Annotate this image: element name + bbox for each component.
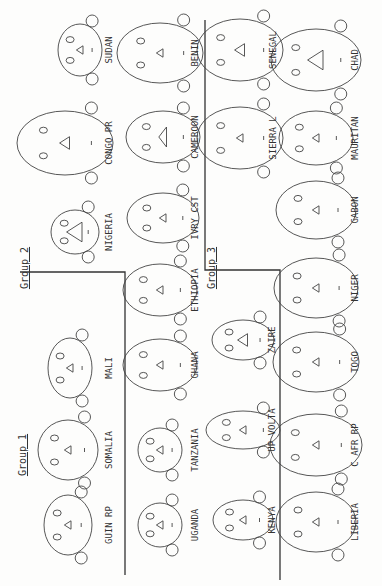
nose-icon [60,137,70,150]
ear-icon [254,491,266,503]
nose-icon [239,516,246,524]
nose-icon [312,518,319,526]
head-outline [274,258,358,318]
ear-icon [177,240,189,252]
face-ethiopia [123,255,197,325]
head-outline [44,495,92,555]
eye-icon [294,195,302,201]
eye-icon [146,456,154,462]
ear-icon [174,313,186,325]
face-ghana [123,330,197,400]
eye-icon [222,419,230,425]
group-label: Group 1 [17,434,28,476]
ear-icon [174,330,186,342]
eye-icon [137,38,145,44]
eye-icon [139,277,147,283]
head-outline [213,500,273,540]
face-uganda [138,494,182,556]
ear-icon [254,311,266,323]
head-outline [279,111,353,165]
ear-icon [178,80,190,92]
eye-icon [139,297,147,303]
ear-icon [177,102,189,114]
country-label: SIERRA L [268,116,278,159]
country-label: CHAD [350,49,360,71]
eye-icon [143,205,151,211]
eye-icon [66,37,74,43]
ear-icon [82,251,94,263]
ear-icon [254,357,266,369]
country-label: TANZANIA [190,428,200,472]
face-tanzania [138,419,182,481]
ear-icon [258,98,270,110]
country-label: UP VOLTA [267,408,277,452]
face-togo [273,323,359,401]
eye-icon [294,507,302,513]
face-congo-pr [17,102,113,184]
nose-icon [156,361,163,369]
ear-icon [258,10,270,22]
nose-icon [312,206,319,214]
eye-icon [293,273,301,279]
labels-layer: SUDANCONGO PRNIGERIABENINCAMEROONIVRY CS… [17,31,360,544]
head-outline [126,111,200,163]
country-label: ETHIOPIA [190,268,200,312]
eye-icon [146,531,154,537]
country-label: TOGO [350,351,360,373]
head-outline [138,428,182,472]
eye-icon [56,353,64,359]
ear-icon [166,544,178,556]
country-label: NIGER [350,274,360,302]
head-outline [123,264,197,316]
ear-icon [86,15,98,27]
ear-icon [335,405,347,417]
eye-icon [51,459,59,465]
eye-icon [293,297,301,303]
nose-icon [312,134,319,142]
country-label: UGANDA [190,508,200,541]
eye-icon [51,435,59,441]
ear-icon [332,549,344,561]
ear-icon [177,160,189,172]
head-outline [51,210,99,254]
group-label: Group 3 [206,247,217,289]
eye-icon [137,62,145,68]
ear-icon [85,172,97,184]
country-label: SUDAN [104,36,114,63]
nose-icon [235,44,245,57]
eye-icon [222,435,230,441]
ear-icon [82,201,94,213]
nose-icon [66,364,73,372]
eye-icon [225,345,233,351]
head-outline [17,111,113,175]
country-label: CAMEROON [190,115,200,158]
face-mali [48,329,92,407]
country-label: MAURITAN [350,116,360,159]
nose-icon [238,334,248,347]
eye-icon [291,454,299,460]
eye-icon [143,225,151,231]
head-outline [123,339,197,391]
eye-icon [60,238,68,244]
head-outline [138,503,182,547]
country-label: C AFR RP [350,423,360,467]
eye-icon [66,57,74,63]
ear-icon [335,20,347,32]
head-outline [38,420,98,480]
nose-icon [156,521,163,529]
country-label: ZAIRE [267,326,277,353]
nose-icon [239,426,246,434]
nose-icon [64,446,71,454]
nose-icon [312,358,319,366]
ear-icon [174,388,186,400]
eye-icon [291,430,299,436]
ear-icon [332,236,344,248]
divider-group2-group3 [205,20,280,580]
eye-icon [217,59,225,65]
head-outline [270,414,362,476]
face-c-afr-rp [270,405,362,485]
nose-icon [308,50,323,70]
eye-icon [142,124,150,130]
eye-icon [217,147,225,153]
eye-icon [56,377,64,383]
